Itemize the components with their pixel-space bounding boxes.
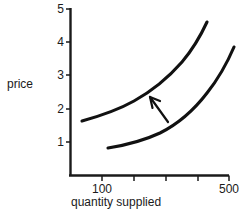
supply-curve-chart: 5 4 3 2 1 100 500 price quantity supplie… bbox=[0, 0, 247, 214]
x-tick-label-100: 100 bbox=[85, 183, 119, 195]
shift-arrow bbox=[150, 97, 168, 122]
supply-curve-left bbox=[82, 22, 207, 121]
y-tick-label-5: 5 bbox=[48, 3, 64, 15]
y-axis-title: price bbox=[7, 78, 33, 91]
x-axis-title: quantity supplied bbox=[71, 196, 161, 209]
supply-curve-right bbox=[108, 47, 234, 148]
chart-plot-area bbox=[0, 0, 247, 214]
y-tick-label-2: 2 bbox=[48, 103, 64, 115]
x-tick-label-500: 500 bbox=[212, 183, 246, 195]
y-tick-label-1: 1 bbox=[48, 136, 64, 148]
y-tick-label-4: 4 bbox=[48, 36, 64, 48]
y-tick-label-3: 3 bbox=[48, 69, 64, 81]
